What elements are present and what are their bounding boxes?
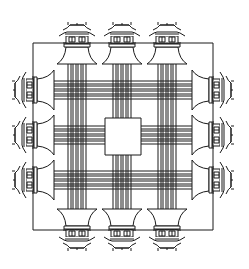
architectural-diagram: [0, 0, 249, 269]
corridor-line: [45, 181, 206, 184]
gate-pavilion: [192, 70, 234, 110]
gate-pavilion: [102, 209, 142, 251]
central-hall: [105, 118, 141, 155]
gate-pavilion: [147, 209, 187, 251]
gate-pavilion: [192, 160, 234, 200]
gate-pavilion: [57, 209, 97, 251]
gate-pavilion: [192, 115, 234, 155]
gate-pavilion: [12, 160, 54, 200]
gate-pavilion: [102, 22, 142, 64]
corridor-line: [45, 91, 206, 94]
corridor-line: [45, 171, 206, 174]
corridor-line: [45, 81, 206, 84]
corridor-line: [45, 176, 206, 179]
corridor-line: [45, 186, 206, 189]
gate-pavilion: [147, 22, 187, 64]
plan-drawing: [0, 0, 249, 269]
corridor-line: [45, 96, 206, 99]
gate-pavilion: [57, 22, 97, 64]
gate-pavilion: [12, 115, 54, 155]
corridor-line: [45, 86, 206, 89]
gate-pavilion: [12, 70, 54, 110]
